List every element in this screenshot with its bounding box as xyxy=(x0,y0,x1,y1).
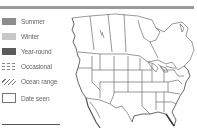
date-seen-box-icon xyxy=(2,93,16,103)
summer-swatch-icon xyxy=(2,18,16,25)
range-legend: Summer Winter Year-round Occasional Ocea… xyxy=(2,14,62,107)
legend-label: Summer xyxy=(21,17,45,26)
legend-divider xyxy=(2,124,60,125)
ocean-hatch-swatch-icon xyxy=(2,79,16,85)
legend-label: Year-round xyxy=(21,47,52,56)
legend-item-date-seen: Date seen xyxy=(2,89,62,107)
legend-label: Date seen xyxy=(21,94,49,103)
legend-item-summer: Summer xyxy=(2,14,62,29)
legend-item-winter: Winter xyxy=(2,29,62,44)
occasional-dotted-swatch-icon xyxy=(2,63,16,70)
legend-item-ocean-range: Ocean range xyxy=(2,74,62,89)
top-bar xyxy=(0,6,194,9)
legend-item-occasional: Occasional xyxy=(2,59,62,74)
legend-label: Ocean range xyxy=(21,77,57,86)
legend-label: Occasional xyxy=(21,62,52,71)
north-america-outline-icon xyxy=(60,10,197,136)
legend-label: Winter xyxy=(21,32,39,41)
year-round-swatch-icon xyxy=(2,48,16,55)
range-map xyxy=(60,10,197,136)
legend-item-year-round: Year-round xyxy=(2,44,62,59)
winter-swatch-icon xyxy=(2,33,16,40)
